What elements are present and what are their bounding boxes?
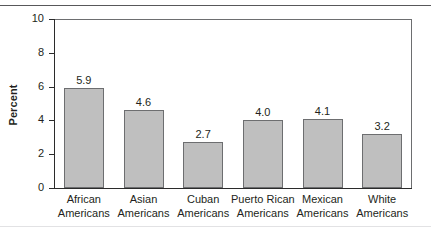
- x-axis-category-label: WhiteAmericans: [342, 192, 422, 220]
- top-divider-rule: [0, 5, 431, 6]
- bottom-divider-rule: [0, 226, 431, 227]
- bar: [64, 88, 104, 188]
- y-axis-tick-mark: [49, 120, 54, 121]
- bar-value-label: 3.2: [352, 120, 412, 132]
- bar-value-label: 5.9: [54, 74, 114, 86]
- bar: [303, 119, 343, 188]
- bar: [243, 120, 283, 188]
- y-axis-tick-mark: [49, 53, 54, 54]
- bar-value-label: 4.6: [114, 96, 174, 108]
- y-axis-tick-label: 4: [8, 114, 44, 125]
- y-axis-tick-mark: [49, 154, 54, 155]
- y-axis-tick-mark: [49, 188, 54, 189]
- bar-value-label: 2.7: [173, 128, 233, 140]
- plot-frame: [54, 19, 412, 188]
- y-axis-tick-label: 2: [8, 148, 44, 159]
- category-label-line2: Americans: [342, 206, 422, 220]
- bar-chart-figure: Percent 0246810 5.94.62.74.04.13.2 Afric…: [0, 0, 431, 231]
- y-axis-line: [54, 19, 55, 189]
- bar: [124, 110, 164, 188]
- bar: [183, 142, 223, 188]
- category-label-line1: White: [342, 192, 422, 206]
- y-axis-tick-label: 8: [8, 47, 44, 58]
- y-axis-tick-label: 10: [8, 13, 44, 24]
- x-axis-line: [54, 188, 412, 189]
- y-axis-tick-mark: [49, 87, 54, 88]
- bar-value-label: 4.0: [233, 106, 293, 118]
- y-axis-tick-label: 6: [8, 81, 44, 92]
- bar: [362, 134, 402, 188]
- y-axis-tick-label: 0: [8, 182, 44, 193]
- bar-value-label: 4.1: [293, 105, 353, 117]
- y-axis-tick-mark: [49, 19, 54, 20]
